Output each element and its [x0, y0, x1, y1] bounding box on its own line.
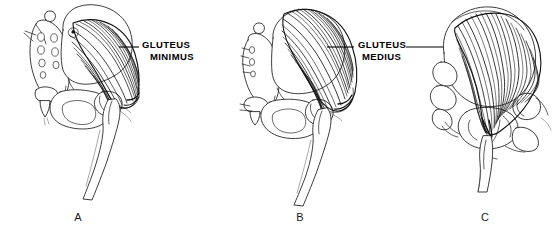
- label-gluteus-minimus-line1: GLUTEUS: [142, 39, 190, 50]
- label-gluteus-medius-line2: MEDIUS: [362, 51, 401, 62]
- figure-canvas: GLUTEUS MINIMUS GLUTEUS MEDIUS A B C: [0, 0, 555, 233]
- anatomy-figure: GLUTEUS MINIMUS GLUTEUS MEDIUS A B C: [0, 0, 555, 233]
- label-gluteus-minimus-line2: MINIMUS: [150, 51, 194, 62]
- label-gluteus-medius-line1: GLUTEUS: [358, 39, 406, 50]
- panel-letter-a: A: [74, 211, 82, 223]
- panel-letter-b: B: [296, 211, 303, 223]
- panel-letter-c: C: [481, 211, 489, 223]
